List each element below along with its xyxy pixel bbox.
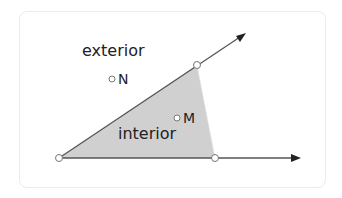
lower-ray-point xyxy=(212,155,219,162)
lower-arrowhead-icon xyxy=(291,154,301,162)
point-m-label: M xyxy=(183,111,195,125)
interior-label: interior xyxy=(118,126,176,142)
exterior-label: exterior xyxy=(82,43,145,59)
vertex-point xyxy=(56,155,63,162)
point-N xyxy=(109,76,115,82)
point-M xyxy=(174,115,180,121)
upper-arrowhead-icon xyxy=(236,33,246,42)
upper-ray-point xyxy=(194,62,201,69)
angle-diagram xyxy=(0,0,342,198)
point-n-label: N xyxy=(118,72,128,86)
